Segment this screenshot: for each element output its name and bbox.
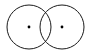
left-circle-center-dot bbox=[28, 26, 31, 29]
diagram-canvas bbox=[0, 0, 90, 54]
two-circles-venn-figure bbox=[0, 0, 90, 54]
diagram-background bbox=[0, 0, 90, 54]
right-circle-center-dot bbox=[61, 26, 64, 29]
